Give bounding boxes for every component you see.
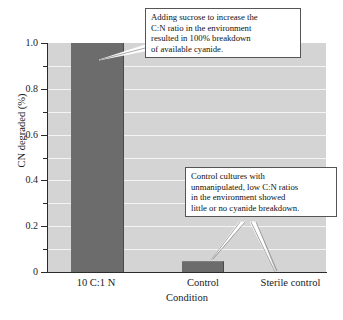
callout-sucrose-line-2: C:N ratio in the environment: [151, 23, 295, 34]
x-axis-label: Condition: [47, 292, 327, 304]
callout-control-line-4: little or no cyanide breakdown.: [191, 203, 331, 214]
bar-chart-figure: 1.0 0.8 0.6 0.4 0.2 0 CN degraded (%) 10…: [0, 0, 343, 320]
y-tick-minor-0-9: [43, 66, 47, 67]
y-tick-0-8: [41, 89, 47, 90]
x-tick-label-sterile-control: Sterile control: [243, 277, 338, 289]
y-axis-label: CN degraded (%): [16, 71, 27, 191]
y-tick-0-6: [41, 135, 47, 136]
x-tick-label-10-c-1-n: 10 C:1 N: [51, 277, 141, 289]
y-tick-0-2: [41, 226, 47, 227]
y-axis-line: [47, 43, 48, 273]
x-axis-line: [47, 272, 327, 273]
callout-control-line-1: Control cultures with: [191, 171, 331, 182]
y-tick-minor-0-1: [43, 249, 47, 250]
y-tick-minor-0-5: [43, 158, 47, 159]
callout-sucrose-line-1: Adding sucrose to increase the: [151, 12, 295, 23]
callout-sucrose-line-4: of available cyanide.: [151, 44, 295, 55]
callout-control-line-3: in the environment showed: [191, 192, 331, 203]
y-tick-1-0: [41, 43, 47, 44]
y-tick-label-1-0: 1.0: [0, 38, 38, 48]
plot-area: [47, 43, 326, 272]
callout-sucrose-line-3: resulted in 100% breakdown: [151, 33, 295, 44]
y-tick-0-4: [41, 180, 47, 181]
bar-control: [182, 261, 224, 272]
callout-control: Control cultures with unmanipulated, low…: [185, 167, 337, 217]
y-tick-label-0: 0: [0, 267, 38, 277]
y-tick-0: [41, 272, 47, 273]
callout-control-line-2: unmanipulated, low C:N ratios: [191, 182, 331, 193]
bar-10-c-1-n: [71, 43, 124, 272]
y-tick-label-0-2: 0.2: [0, 221, 38, 231]
callout-sucrose: Adding sucrose to increase the C:N ratio…: [145, 8, 301, 58]
y-tick-minor-0-3: [43, 203, 47, 204]
x-tick-label-control: Control: [158, 277, 248, 289]
y-tick-minor-0-7: [43, 112, 47, 113]
